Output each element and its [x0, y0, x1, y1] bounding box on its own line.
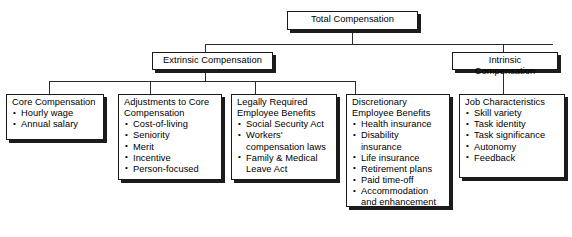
list-item: Family & Medical Leave Act [237, 153, 331, 175]
list-item: Workers' compensation laws [237, 130, 331, 152]
list-item: Autonomy [465, 142, 559, 153]
list-item: Incentive [124, 153, 216, 164]
node-core-compensation-list: Hourly wage Annual salary [12, 108, 98, 130]
connector-level3-bus [49, 81, 356, 82]
connector-root-stem [352, 30, 353, 44]
node-extrinsic-compensation[interactable]: Extrinsic Compensation [152, 52, 273, 70]
list-item: Feedback [465, 153, 559, 164]
list-item: Task identity [465, 119, 559, 130]
list-item: Annual salary [12, 119, 98, 130]
connector-level2-bus [205, 44, 553, 45]
node-discretionary-header: Discretionary Employee Benefits [352, 97, 444, 119]
node-legally-required-list: Social Security Act Workers' compensatio… [237, 119, 331, 175]
connector-core-drop [49, 81, 50, 94]
node-intrinsic-compensation[interactable]: Intrinsic Compensation [452, 52, 558, 70]
list-item: Disability insurance [352, 130, 444, 152]
node-adjustments-to-core-compensation[interactable]: Adjustments to Core Compensation Cost-of… [118, 94, 222, 180]
connector-legally-required-drop [255, 81, 256, 94]
org-chart-canvas: Total Compensation Extrinsic Compensatio… [0, 0, 572, 237]
node-core-compensation[interactable]: Core Compensation Hourly wage Annual sal… [6, 94, 104, 140]
node-adjustments-list: Cost-of-living Seniority Merit Incentive… [124, 119, 216, 175]
list-item: Retirement plans [352, 164, 444, 175]
list-item: Person-focused [124, 164, 216, 175]
connector-discretionary-drop [355, 81, 356, 94]
connector-adjustments-drop [150, 81, 151, 94]
node-job-characteristics-header: Job Characteristics [465, 97, 559, 108]
node-total-compensation[interactable]: Total Compensation [287, 11, 418, 30]
list-item: Accommodation and enhancement [352, 186, 444, 208]
node-discretionary-employee-benefits[interactable]: Discretionary Employee Benefits Health i… [346, 94, 450, 207]
node-legally-required-employee-benefits[interactable]: Legally Required Employee Benefits Socia… [231, 94, 337, 180]
list-item: Hourly wage [12, 108, 98, 119]
list-item: Life insurance [352, 153, 444, 164]
list-item: Cost-of-living [124, 119, 216, 130]
list-item: Paid time-off [352, 175, 444, 186]
node-job-characteristics[interactable]: Job Characteristics Skill variety Task i… [459, 94, 565, 178]
node-job-characteristics-list: Skill variety Task identity Task signifi… [465, 108, 559, 164]
list-item: Seniority [124, 130, 216, 141]
connector-intrinsic-drop [503, 44, 504, 52]
list-item: Social Security Act [237, 119, 331, 130]
list-item: Merit [124, 142, 216, 153]
list-item: Skill variety [465, 108, 559, 119]
node-total-compensation-label: Total Compensation [293, 14, 412, 25]
node-discretionary-list: Health insurance Disability insurance Li… [352, 119, 444, 208]
node-intrinsic-compensation-label: Intrinsic Compensation [458, 55, 552, 77]
connector-extrinsic-drop [205, 44, 206, 52]
list-item: Task significance [465, 130, 559, 141]
node-adjustments-header: Adjustments to Core Compensation [124, 97, 216, 119]
list-item: Health insurance [352, 119, 444, 130]
node-core-compensation-header: Core Compensation [12, 97, 98, 108]
node-legally-required-header: Legally Required Employee Benefits [237, 97, 331, 119]
connector-extrinsic-stem [205, 70, 206, 81]
node-extrinsic-compensation-label: Extrinsic Compensation [158, 55, 267, 66]
